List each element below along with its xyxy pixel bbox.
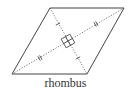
double-tick-mark-upper bbox=[94, 21, 98, 26]
right-angle-marker bbox=[61, 34, 75, 48]
figure-label: rhombus bbox=[0, 76, 131, 91]
double-tick-mark-lower bbox=[38, 55, 42, 60]
single-tick-mark-upper bbox=[56, 23, 60, 25]
